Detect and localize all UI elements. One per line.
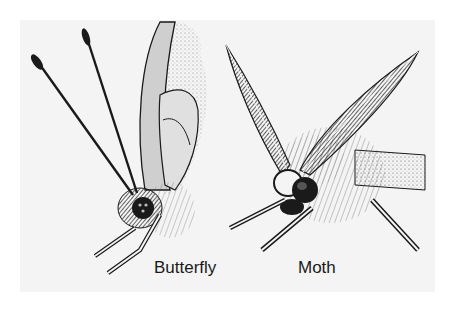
butterfly-label: Butterfly <box>154 258 216 278</box>
moth-figure <box>226 45 425 250</box>
illustration-canvas: Butterfly Moth <box>0 0 453 309</box>
moth-label: Moth <box>298 258 336 278</box>
insect-drawing <box>0 0 453 309</box>
butterfly-figure <box>29 21 207 273</box>
